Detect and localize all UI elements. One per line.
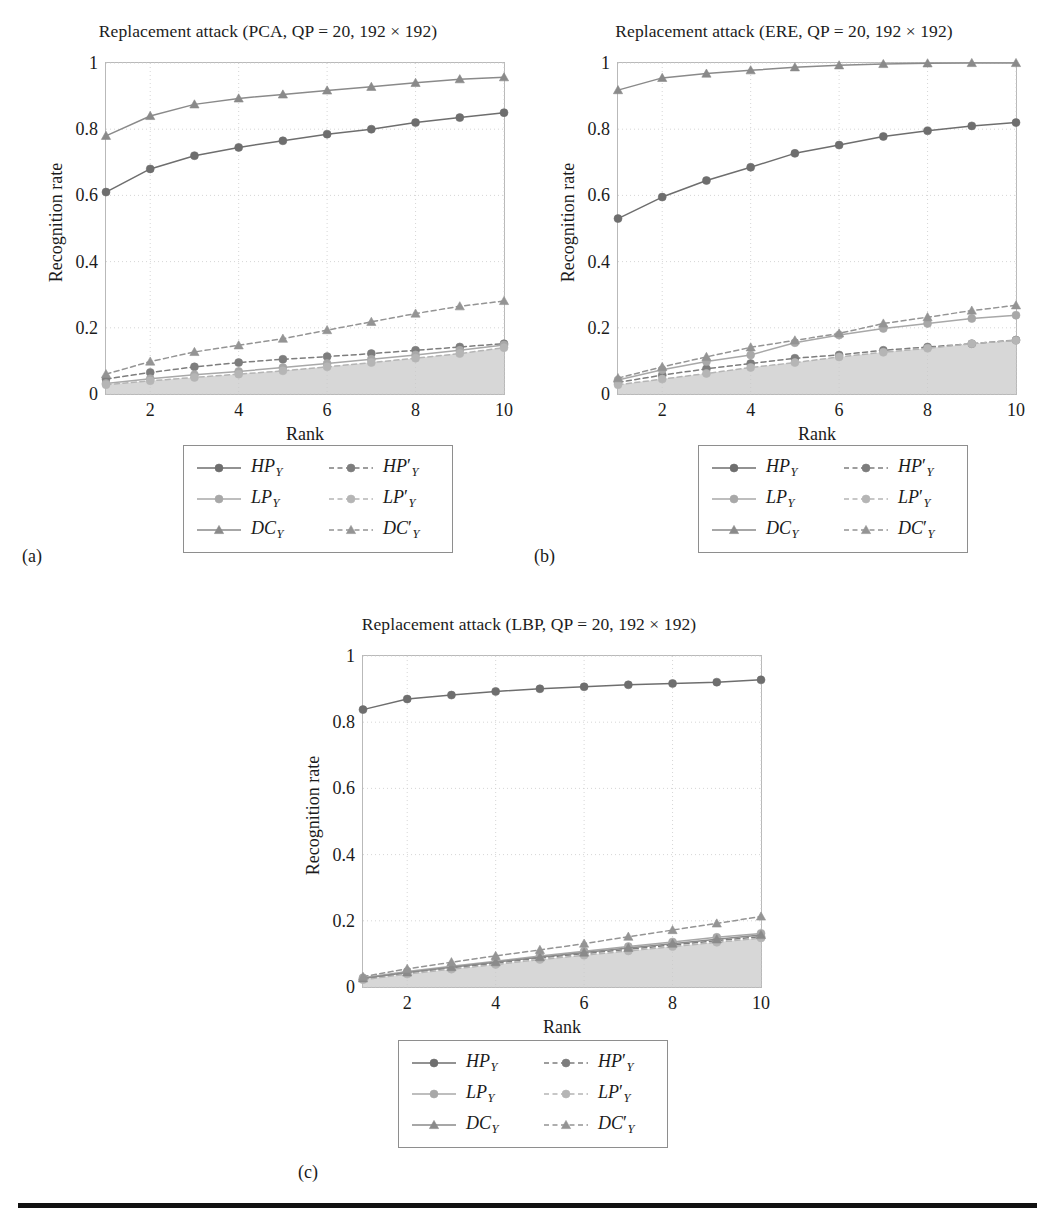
- data-point-marker: [757, 676, 765, 684]
- legend-label: DCY: [251, 519, 283, 541]
- data-point-marker: [412, 119, 420, 127]
- legend-sample-triangle-icon: [543, 1118, 589, 1132]
- legend-entry-hpp: HP′Y: [328, 454, 438, 482]
- legend-sample-triangle-icon: [411, 1118, 457, 1132]
- data-point-marker: [658, 193, 666, 201]
- x-tick-label: 4: [234, 400, 243, 421]
- panel-a-y-axis-title: Recognition rate: [46, 143, 67, 303]
- data-point-marker: [968, 122, 976, 130]
- legend-entry-lp: LPY: [411, 1080, 517, 1108]
- data-point-marker: [235, 143, 243, 151]
- legend-sample-circle-icon: [411, 1087, 457, 1101]
- data-point-marker: [791, 149, 799, 157]
- data-point-marker: [102, 188, 110, 196]
- legend-sample-triangle-icon: [711, 523, 757, 537]
- data-point-marker: [1012, 311, 1020, 319]
- chart-canvas: [106, 63, 504, 394]
- series-line: [106, 113, 504, 192]
- legend-label: HP′Y: [898, 457, 933, 479]
- legend-sample-triangle-icon: [328, 523, 374, 537]
- y-tick-label: 0.2: [333, 910, 356, 931]
- legend-sample-circle-icon: [411, 1056, 457, 1070]
- data-point-marker: [279, 137, 287, 145]
- series-line: [363, 680, 761, 710]
- panel-a-legend: HPYHP′YLPYLP′YDCYDC′Y: [183, 445, 453, 553]
- legend-label: LP′Y: [383, 488, 415, 510]
- subcaption-b: (b): [534, 546, 555, 567]
- data-point-marker: [791, 359, 799, 367]
- data-point-marker: [492, 687, 500, 695]
- data-point-marker: [447, 691, 455, 699]
- series-hpy: [102, 109, 508, 196]
- data-point-marker: [968, 340, 976, 348]
- data-point-marker: [367, 125, 375, 133]
- chart-canvas: [618, 63, 1016, 394]
- legend-entry-dcp: DC′Y: [843, 516, 953, 544]
- data-point-marker: [747, 364, 755, 372]
- data-point-marker: [190, 152, 198, 160]
- legend-sample-circle-icon: [328, 492, 374, 506]
- panel-c-legend: HPYHP′YLPYLP′YDCYDC′Y: [398, 1040, 668, 1148]
- data-point-marker: [658, 362, 667, 370]
- data-point-marker: [235, 359, 243, 367]
- legend-entry-dc: DCY: [411, 1111, 517, 1139]
- data-point-marker: [924, 344, 932, 352]
- legend-entry-lpp: LP′Y: [328, 485, 438, 513]
- legend-sample-circle-icon: [543, 1087, 589, 1101]
- series-dcy: [613, 58, 1020, 93]
- data-point-marker: [835, 353, 843, 361]
- y-tick-label: 0.2: [76, 317, 99, 338]
- legend-label: HPY: [766, 457, 797, 479]
- data-point-marker: [669, 679, 677, 687]
- data-point-marker: [580, 939, 589, 947]
- x-tick-label: 8: [668, 993, 677, 1014]
- data-point-marker: [347, 495, 355, 503]
- legend-label: LPY: [766, 488, 794, 510]
- x-tick-label: 2: [658, 400, 667, 421]
- panel-b-y-axis-title: Recognition rate: [558, 143, 579, 303]
- legend-sample-triangle-icon: [843, 523, 889, 537]
- data-point-marker: [624, 681, 632, 689]
- data-point-marker: [279, 367, 287, 375]
- panel-c-plot-area: 00.20.40.60.81246810Rank: [362, 655, 762, 988]
- y-tick-label: 0.6: [333, 778, 356, 799]
- y-tick-label: 1: [601, 53, 610, 74]
- y-tick-label: 0.6: [76, 185, 99, 206]
- y-tick-label: 0.2: [588, 317, 611, 338]
- data-point-marker: [702, 177, 710, 185]
- data-point-marker: [102, 381, 110, 389]
- data-point-marker: [1012, 336, 1020, 344]
- legend-entry-dc: DCY: [196, 516, 302, 544]
- data-point-marker: [146, 165, 154, 173]
- subcaption-a: (a): [22, 546, 42, 567]
- panel-a: Replacement attack (PCA, QP = 20, 192 × …: [18, 22, 518, 452]
- data-point-marker: [235, 370, 243, 378]
- data-point-marker: [500, 109, 508, 117]
- data-point-marker: [347, 464, 355, 472]
- data-point-marker: [146, 357, 155, 365]
- data-point-marker: [835, 141, 843, 149]
- data-point-marker: [1011, 301, 1020, 309]
- data-point-marker: [562, 1059, 570, 1067]
- x-tick-label: 10: [1007, 400, 1025, 421]
- legend-label: LP′Y: [898, 488, 930, 510]
- legend-label: HP′Y: [598, 1052, 633, 1074]
- legend-entry-lpp: LP′Y: [843, 485, 953, 513]
- data-point-marker: [756, 912, 765, 920]
- legend-label: LPY: [251, 488, 279, 510]
- legend-label: HPY: [251, 457, 282, 479]
- legend-label: DC′Y: [598, 1114, 634, 1136]
- data-point-marker: [562, 1090, 570, 1098]
- data-point-marker: [456, 350, 464, 358]
- figure-root: Replacement attack (PCA, QP = 20, 192 × …: [0, 0, 1055, 1225]
- panel-b-plot-area: 00.20.40.60.81246810Rank: [617, 62, 1017, 395]
- bottom-horizontal-rule: [18, 1203, 1037, 1208]
- legend-entry-dcp: DC′Y: [543, 1111, 653, 1139]
- series-line: [106, 77, 504, 136]
- x-tick-label: 2: [403, 993, 412, 1014]
- data-point-marker: [403, 695, 411, 703]
- data-point-marker: [730, 495, 738, 503]
- x-tick-label: 8: [411, 400, 420, 421]
- x-tick-label: 10: [752, 993, 770, 1014]
- legend-label: DCY: [766, 519, 798, 541]
